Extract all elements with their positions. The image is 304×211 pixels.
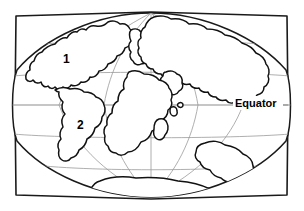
label-continent-1: 1 [63,52,70,66]
world-map-figure: 1 2 Equator [0,0,304,211]
landmass-small-island [178,103,184,108]
landmass-madagascar [170,107,177,116]
label-equator: Equator [235,97,277,109]
map-svg-canvas: 1 2 Equator [0,0,304,211]
label-continent-2: 2 [77,118,84,132]
